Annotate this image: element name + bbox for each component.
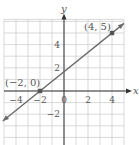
y-tick-label: 2 xyxy=(54,63,60,73)
y-tick-label: 4 xyxy=(54,40,60,50)
y-tick-label: −2 xyxy=(47,109,60,119)
point-label: (4, 5) xyxy=(84,21,111,32)
y-axis-label: y xyxy=(60,3,67,14)
line-series xyxy=(3,23,124,121)
coordinate-graph: xy (−2, 0)(4, 5)−4−2024−224 xyxy=(0,0,139,145)
plot-line xyxy=(3,23,124,121)
tick-labels: (−2, 0)(4, 5)−4−2024−224 xyxy=(5,21,115,119)
x-tick-label: −4 xyxy=(9,95,23,105)
x-tick-label: −2 xyxy=(33,95,46,105)
axes: xy xyxy=(4,3,139,145)
x-axis-arrow-icon xyxy=(126,89,132,94)
x-tick-label: 2 xyxy=(85,95,91,105)
x-tick-label: 4 xyxy=(109,95,115,105)
data-point xyxy=(38,89,42,93)
point-label: (−2, 0) xyxy=(5,77,40,88)
x-tick-label: 0 xyxy=(61,95,67,105)
x-axis-label: x xyxy=(133,85,139,96)
